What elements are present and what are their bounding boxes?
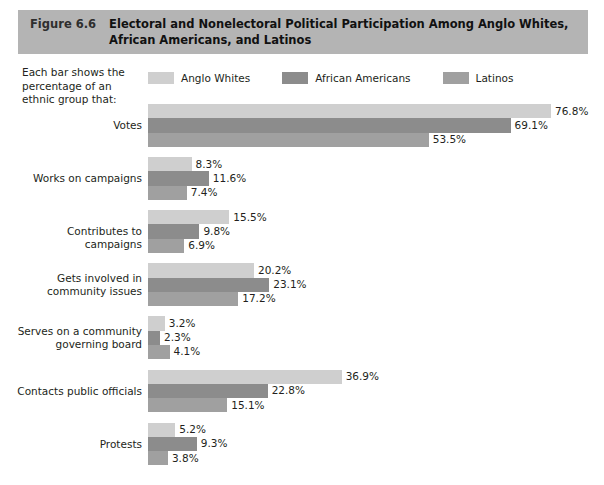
- bar: [148, 186, 187, 200]
- bar-value-label: 36.9%: [342, 369, 379, 384]
- bar: [148, 157, 192, 171]
- legend-label: Anglo Whites: [181, 72, 250, 84]
- category-label: Serves on a communitygoverning board: [12, 325, 142, 350]
- legend-swatch-icon: [148, 72, 174, 84]
- category-label: Works on campaigns: [12, 172, 142, 185]
- bar-value-label: 8.3%: [192, 157, 223, 172]
- figure-title: Electoral and Nonelectoral Political Par…: [109, 17, 578, 48]
- bar: [148, 133, 429, 147]
- bar: [148, 451, 168, 465]
- bar: [148, 104, 551, 118]
- bar: [148, 437, 197, 451]
- bar-value-label: 9.8%: [199, 224, 230, 239]
- category-label: Protests: [12, 438, 142, 451]
- legend-item-2: Latinos: [443, 72, 514, 84]
- bar-group: Contributes to campaigns15.5%9.8%6.9%: [0, 210, 604, 253]
- bar-value-label: 23.1%: [269, 277, 306, 292]
- bar: [148, 278, 269, 292]
- category-label-line: Protests: [12, 438, 142, 451]
- bar-value-label: 2.3%: [160, 330, 191, 345]
- bar-value-label: 15.5%: [229, 210, 266, 225]
- bar: [148, 331, 160, 345]
- bar: [148, 345, 170, 359]
- category-label-line: Contacts public officials: [12, 385, 142, 398]
- legend-item-1: African Americans: [282, 72, 410, 84]
- chart-legend: Anglo WhitesAfrican AmericansLatinos: [148, 72, 545, 84]
- bar-value-label: 9.3%: [197, 436, 228, 451]
- bar-value-label: 11.6%: [209, 171, 246, 186]
- figure-number: Figure 6.6: [30, 17, 96, 31]
- bar-value-label: 6.9%: [184, 238, 215, 253]
- bar-value-label: 3.8%: [168, 451, 199, 466]
- bar-group: Contacts public officials36.9%22.8%15.1%: [0, 370, 604, 413]
- bar-value-label: 22.8%: [268, 383, 305, 398]
- bar-value-label: 20.2%: [254, 263, 291, 278]
- bar-group: Gets involved incommunity issues20.2%23.…: [0, 263, 604, 306]
- chart-plot-area: Votes76.8%69.1%53.5%Works on campaigns8.…: [0, 100, 604, 485]
- bar: [148, 292, 238, 306]
- bar-value-label: 15.1%: [227, 398, 264, 413]
- bar-value-label: 4.1%: [170, 344, 201, 359]
- bar: [148, 316, 165, 330]
- bar-value-label: 76.8%: [551, 104, 588, 119]
- figure-header-band: Figure 6.6 Electoral and Nonelectoral Po…: [18, 10, 588, 54]
- bar: [148, 171, 209, 185]
- bar-value-label: 17.2%: [238, 291, 275, 306]
- category-label: Contributes to campaigns: [12, 225, 142, 250]
- category-label-line: Serves on a community: [12, 325, 142, 338]
- bar: [148, 370, 342, 384]
- legend-label: African Americans: [315, 72, 410, 84]
- bar: [148, 384, 268, 398]
- bar-group: Protests5.2%9.3%3.8%: [0, 423, 604, 466]
- bar-value-label: 7.4%: [187, 185, 218, 200]
- category-label: Contacts public officials: [12, 385, 142, 398]
- bar-group: Serves on a communitygoverning board3.2%…: [0, 316, 604, 359]
- bar: [148, 239, 184, 253]
- category-label-line: Votes: [12, 119, 142, 132]
- category-label-line: Contributes to campaigns: [12, 225, 142, 250]
- bar: [148, 118, 511, 132]
- category-label-line: community issues: [12, 285, 142, 298]
- category-label: Votes: [12, 119, 142, 132]
- legend-swatch-icon: [443, 72, 469, 84]
- bar-group: Votes76.8%69.1%53.5%: [0, 104, 604, 147]
- bar-value-label: 5.2%: [175, 422, 206, 437]
- category-label-line: governing board: [12, 338, 142, 351]
- category-label-line: Gets involved in: [12, 272, 142, 285]
- bar: [148, 224, 199, 238]
- bar: [148, 423, 175, 437]
- bar: [148, 210, 229, 224]
- bar: [148, 263, 254, 277]
- bar: [148, 398, 227, 412]
- bar-value-label: 3.2%: [165, 316, 196, 331]
- category-label: Gets involved incommunity issues: [12, 272, 142, 297]
- legend-label: Latinos: [476, 72, 514, 84]
- category-label-line: Works on campaigns: [12, 172, 142, 185]
- bar-value-label: 53.5%: [429, 132, 466, 147]
- bar-group: Works on campaigns8.3%11.6%7.4%: [0, 157, 604, 200]
- bar-value-label: 69.1%: [511, 118, 548, 133]
- legend-item-0: Anglo Whites: [148, 72, 250, 84]
- legend-swatch-icon: [282, 72, 308, 84]
